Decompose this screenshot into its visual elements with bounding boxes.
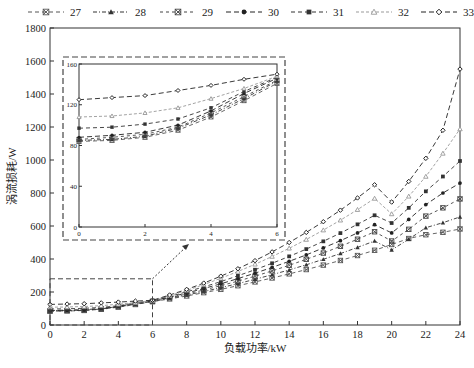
x-tick-label: 20 [386,329,397,340]
x-tick-label: 22 [421,329,432,340]
marker-circle-icon [441,191,445,195]
marker-triangle-open-icon [270,254,274,258]
chart: 27282930313233 0246810121416182022240200… [0,0,474,368]
marker-square-icon [236,274,240,278]
inset-x-tick-label: 0 [77,230,81,238]
marker-triangle-open-icon [355,207,359,211]
x-tick-label: 12 [250,329,261,340]
marker-x-icon [287,263,291,267]
marker-x-icon [372,230,376,234]
marker-diamond-open-icon [82,302,86,306]
y-tick-label: 400 [30,254,46,265]
legend-label: 29 [202,6,214,18]
marker-x-icon [270,269,274,273]
marker-square-icon [441,175,445,179]
marker-diamond-open-icon [270,250,274,254]
y-tick-label: 600 [30,221,46,232]
x-tick-label: 18 [352,329,363,340]
zoom-region-box [50,244,189,325]
y-tick-label: 1600 [25,56,46,67]
marker-triangle-open-icon [389,212,393,216]
inset-x-tick-label: 4 [209,230,213,238]
marker-square-icon [390,221,394,225]
marker-triangle-icon [458,215,462,219]
inset-y-tick-label: 40 [70,183,78,191]
y-tick-label: 1000 [25,155,46,166]
legend-label: 33 [463,6,474,18]
marker-circle-icon [270,266,274,270]
marker-triangle-open-icon [407,194,411,198]
inset-y-tick-label: 160 [67,61,78,69]
marker-triangle-open-icon [458,127,462,131]
marker-circle-icon [321,246,325,250]
marker-triangle-icon [389,248,393,252]
marker-triangle-icon [441,221,445,225]
marker-circle-icon [304,253,308,257]
x-tick-label: 4 [116,329,122,340]
x-tick-label: 24 [455,329,466,340]
marker-diamond-open-icon [99,301,103,305]
x-tick-label: 2 [82,329,87,340]
marker-square-icon [321,239,325,243]
chart-svg: 27282930313233 0246810121416182022240200… [0,0,474,368]
x-tick-label: 6 [150,329,155,340]
marker-square-icon [287,254,291,258]
marker-x-icon [441,206,445,210]
marker-square-icon [407,206,411,210]
marker-triangle-open-icon [287,246,291,250]
marker-triangle-icon [424,225,428,229]
marker-circle-icon [77,136,80,139]
arrow-head-icon [182,244,189,250]
marker-triangle-open-icon [338,218,342,222]
marker-diamond-open-icon [236,267,240,271]
inset-y-tick-label: 80 [70,142,78,150]
marker-circle-icon [242,10,247,15]
marker-square-icon [424,189,428,193]
marker-square-icon [356,222,360,226]
x-tick-label: 14 [284,329,295,340]
y-tick-label: 800 [30,188,46,199]
marker-circle-icon [407,218,411,222]
marker-circle-icon [373,223,377,227]
marker-x-icon [321,251,325,255]
x-axis-title: 负载功率/kW [224,341,288,354]
marker-circle-icon [176,123,179,126]
marker-square-icon [110,125,113,128]
marker-circle-icon [458,181,462,185]
legend-item-32: 32 [356,6,409,18]
marker-triangle-open-icon [372,196,376,200]
marker-x-icon [424,214,428,218]
marker-circle-icon [356,231,360,235]
marker-x-icon [338,244,342,248]
inset-dashed-border [63,57,285,240]
marker-square-icon [373,213,377,217]
inset-x-tick-label: 2 [143,230,147,238]
legend-item-30: 30 [226,6,280,18]
y-tick-label: 200 [30,287,46,298]
x-tick-label: 0 [47,329,52,340]
x-tick-label: 10 [216,329,227,340]
legend-item-33: 33 [421,6,474,18]
marker-x-icon [355,237,359,241]
marker-square-icon [77,126,80,129]
marker-square-icon [176,117,179,120]
marker-square-icon [458,159,462,163]
legend-item-27: 27 [28,6,82,18]
legend-label: 30 [268,6,280,18]
marker-square-icon [270,261,274,265]
marker-diamond-open-icon [458,67,462,71]
legend-label: 31 [333,6,344,18]
legend-label: 27 [70,6,82,18]
marker-square-icon [307,10,312,15]
x-tick-label: 16 [318,329,329,340]
inset-y-tick-label: 120 [67,101,78,109]
marker-circle-icon [110,134,113,137]
marker-triangle-open-icon [441,151,445,155]
x-tick-label: 8 [184,329,189,340]
marker-x-icon [407,227,411,231]
marker-diamond-open-icon [436,9,442,15]
marker-circle-icon [143,131,146,134]
marker-diamond-open-icon [65,302,69,306]
marker-diamond-open-icon [441,128,445,132]
legend-item-31: 31 [291,6,344,18]
